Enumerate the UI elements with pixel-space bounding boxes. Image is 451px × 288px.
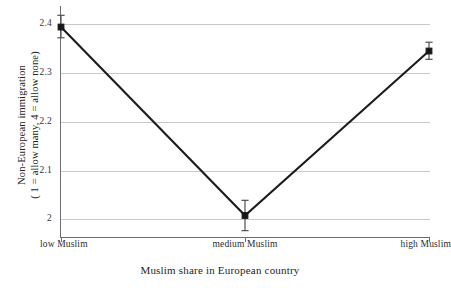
y-axis-tick-label: 2 bbox=[8, 213, 52, 223]
data-point-marker bbox=[426, 48, 432, 54]
x-axis-title: Muslim share in European country bbox=[0, 264, 440, 276]
y-axis-tick-label: 2.4 bbox=[8, 18, 52, 28]
data-series-layer bbox=[60, 6, 430, 238]
y-axis-tick-label: 2.1 bbox=[8, 165, 52, 175]
x-axis-tick-label: low Muslim bbox=[40, 239, 88, 249]
data-point-marker bbox=[242, 213, 248, 219]
x-axis-tick-label: medium Muslim bbox=[212, 239, 277, 249]
data-point-marker bbox=[58, 24, 64, 30]
x-axis-tick-label: high Muslim bbox=[401, 239, 451, 249]
y-axis-tick-label: 2.3 bbox=[8, 67, 52, 77]
plot-area bbox=[60, 6, 430, 238]
series-line bbox=[61, 27, 429, 215]
y-axis-tick-label: 2.2 bbox=[8, 116, 52, 126]
